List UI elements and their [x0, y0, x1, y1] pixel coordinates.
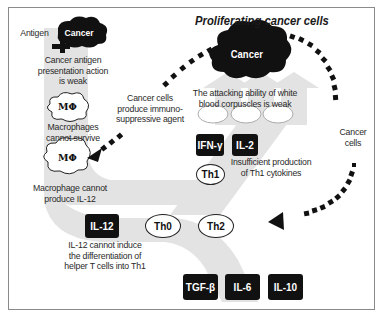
macrophage-label-2: MΦ — [58, 152, 77, 163]
th1-cytokines-text: Insufficient production of Th1 cytokines — [230, 157, 313, 178]
cytokine-box-il10: IL-10 — [268, 274, 303, 300]
cytokine-box-il6: IL-6 — [225, 274, 260, 300]
cancer-label-small: Cancer — [65, 27, 94, 38]
attacking-ability-text: The attacking ability of white blood cor… — [185, 88, 305, 109]
il12-induce-text: IL-12 cannot induce the differentiation … — [59, 240, 151, 272]
t-cell-th0: Th0 — [145, 214, 181, 238]
diagram-title: Proliferating cancer cells — [195, 14, 329, 28]
cytokine-box-il12: IL-12 — [85, 214, 119, 238]
cytokine-box-ifn-gamma: IFN-γ — [196, 134, 224, 156]
antigen-presentation-text: Cancer antigen presentation action is we… — [32, 55, 115, 87]
macrophage-il12-text: Macrophage cannot produce IL-12 — [24, 183, 116, 204]
macrophages-survive-text: Macrophages cannot survive — [32, 122, 115, 143]
cytokine-box-tgf-beta: TGF-β — [183, 274, 218, 300]
t-cell-th2: Th2 — [198, 214, 234, 238]
cancer-cells-arrow-text: Cancer cells — [335, 127, 372, 148]
cancer-label-main: Cancer — [231, 48, 263, 60]
t-cell-th1: Th1 — [196, 164, 225, 185]
cytokine-box-il2: IL-2 — [232, 134, 258, 156]
immunosuppressive-text: Cancer cells produce immuno- suppressive… — [109, 93, 192, 125]
macrophage-label-1: MΦ — [58, 101, 77, 112]
antigen-label: Antigen — [20, 28, 48, 39]
